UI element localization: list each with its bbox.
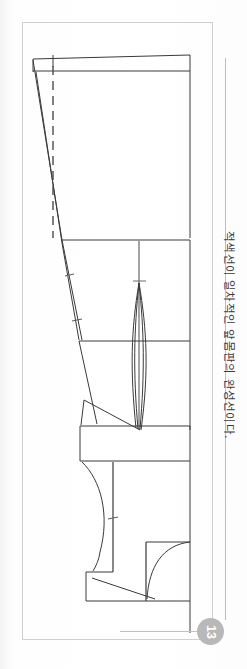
page-number-badge: 13	[197, 618, 224, 645]
figure-caption: 적색선이 일차적인 앞몸판의 완성선이다.	[222, 231, 238, 439]
page-number-text: 13	[204, 625, 218, 639]
caption-column: 적색선이 일차적인 앞몸판의 완성선이다.	[213, 0, 247, 669]
hem-slope-edge	[81, 400, 84, 425]
side-seam-upper-inner-line	[36, 72, 62, 243]
side-seam-lower-line	[79, 341, 97, 424]
armhole-curve	[82, 462, 104, 552]
pattern-figure	[0, 0, 247, 669]
notch-mark-lower	[72, 319, 82, 321]
side-seam-mid-line	[62, 240, 82, 340]
side-seam-mid-inner-line	[62, 243, 79, 340]
pattern-draft-svg	[0, 0, 247, 669]
armhole-curve-tail	[93, 552, 100, 571]
waist-dart-left-leg	[132, 283, 139, 428]
waist-dart-right-leg	[139, 283, 146, 430]
neckline-curve	[147, 542, 190, 599]
page-number-rule	[120, 631, 198, 632]
page-canvas: 적색선이 일차적인 앞몸판의 완성선이다. 13	[0, 0, 247, 669]
shoulder-top-line	[33, 55, 190, 59]
